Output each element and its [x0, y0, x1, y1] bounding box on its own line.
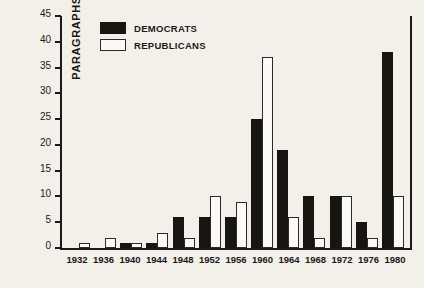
bar-group [356, 16, 378, 248]
y-axis-title-container: PARAGRAPHS [0, 28, 24, 228]
legend-label-republicans: REPUBLICANS [134, 40, 206, 51]
x-tick-label: 1936 [93, 254, 115, 265]
x-tick-label: 1948 [172, 254, 194, 265]
bar-republicans-1944 [157, 233, 168, 248]
y-tick-mark [55, 221, 61, 223]
x-tick-label: 1968 [305, 254, 327, 265]
x-tick-label: 1980 [384, 254, 406, 265]
x-tick-label: 1960 [252, 254, 274, 265]
y-tick-label: 40 [40, 34, 51, 45]
bar-republicans-1968 [314, 238, 325, 248]
bar-democrats-1968 [303, 196, 314, 248]
bar-democrats-1972 [330, 196, 341, 248]
x-tick-label: 1944 [146, 254, 168, 265]
bar-democrats-1976 [356, 222, 367, 248]
y-tick-label: 45 [40, 8, 51, 19]
bar-republicans-1980 [393, 196, 404, 248]
y-tick-mark [55, 118, 61, 120]
bar-republicans-1976 [367, 238, 378, 248]
x-tick-label: 1976 [358, 254, 380, 265]
y-tick-label: 0 [45, 240, 51, 251]
x-tick-label: 1956 [225, 254, 247, 265]
y-tick-mark [55, 15, 61, 17]
x-tick-label: 1964 [278, 254, 300, 265]
legend-item-democrats: DEMOCRATS [100, 22, 206, 34]
bar-group [68, 16, 90, 248]
y-tick-label: 20 [40, 137, 51, 148]
bar-democrats-1960 [251, 119, 262, 248]
bar-group [225, 16, 247, 248]
x-tick-label: 1932 [66, 254, 88, 265]
legend-swatch-democrats-icon [100, 22, 126, 34]
x-tick-label: 1940 [119, 254, 141, 265]
y-tick-label: 15 [40, 163, 51, 174]
x-axis-labels: 1932193619401944194819521956196019641968… [60, 254, 412, 265]
y-tick-label: 10 [40, 188, 51, 199]
bar-chart: PARAGRAPHS 454035302520151050 1932193619… [0, 0, 424, 288]
bar-democrats-1948 [173, 217, 184, 248]
legend-label-democrats: DEMOCRATS [134, 23, 197, 34]
bar-republicans-1964 [288, 217, 299, 248]
bar-democrats-1980 [382, 52, 393, 248]
bar-group [330, 16, 352, 248]
bar-democrats-1944 [146, 243, 157, 248]
bar-republicans-1956 [236, 202, 247, 248]
y-tick-mark [55, 247, 61, 249]
legend-swatch-republicans-icon [100, 39, 126, 51]
chart-legend: DEMOCRATS REPUBLICANS [100, 22, 206, 56]
bar-republicans-1972 [341, 196, 352, 248]
bar-republicans-1936 [105, 238, 116, 248]
y-tick-mark [55, 92, 61, 94]
bar-republicans-1932 [79, 243, 90, 248]
y-tick-mark [55, 41, 61, 43]
bar-democrats-1964 [277, 150, 288, 248]
bar-democrats-1952 [199, 217, 210, 248]
bar-republicans-1948 [184, 238, 195, 248]
y-tick-mark [55, 144, 61, 146]
y-tick-label: 25 [40, 111, 51, 122]
bar-democrats-1956 [225, 217, 236, 248]
bar-republicans-1940 [131, 243, 142, 248]
legend-item-republicans: REPUBLICANS [100, 39, 206, 51]
y-tick-label: 35 [40, 60, 51, 71]
y-tick-label: 5 [45, 214, 51, 225]
y-tick-mark [55, 170, 61, 172]
bar-group [303, 16, 325, 248]
x-tick-label: 1952 [199, 254, 221, 265]
bar-group [251, 16, 273, 248]
x-tick-label: 1972 [331, 254, 353, 265]
bar-democrats-1940 [120, 243, 131, 248]
y-tick-mark [55, 67, 61, 69]
bar-republicans-1960 [262, 57, 273, 248]
y-tick-mark [55, 195, 61, 197]
bar-group [382, 16, 404, 248]
y-tick-label: 30 [40, 85, 51, 96]
bar-republicans-1952 [210, 196, 221, 248]
bar-group [277, 16, 299, 248]
